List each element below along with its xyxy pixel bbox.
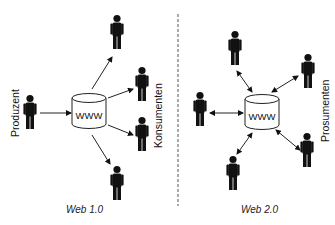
web-comparison-diagram: WWW WWW bbox=[0, 0, 335, 225]
web2-hub-label: WWW bbox=[249, 111, 276, 122]
prosumer-arrow-right-bottom bbox=[276, 130, 300, 150]
prosumer-arrow-top bbox=[237, 71, 252, 92]
consumer-person-icon bbox=[110, 15, 123, 49]
prosumer-person-icon bbox=[301, 54, 314, 88]
prosumer-arrow-right-top bbox=[272, 76, 298, 92]
consumer-label: Konsumenten bbox=[152, 83, 164, 148]
consumer-person-icon bbox=[135, 117, 148, 151]
prosumer-person-icon bbox=[300, 133, 313, 167]
prosumer-arrow-bottom bbox=[237, 133, 252, 154]
web2-section: WWW bbox=[193, 31, 314, 190]
web1-section: WWW bbox=[23, 15, 148, 200]
prosumer-person-icon bbox=[226, 156, 239, 190]
prosumer-person-icon bbox=[228, 31, 241, 65]
web2-caption: Web 2.0 bbox=[241, 204, 278, 215]
consumer-person-icon bbox=[135, 67, 148, 101]
producer-person-icon bbox=[23, 95, 36, 129]
consumer-arrow-bottom bbox=[92, 135, 110, 164]
consumer-arrow-top bbox=[92, 57, 112, 89]
consumer-arrow-right-1 bbox=[108, 89, 133, 98]
prosumer-label: Prosumenten bbox=[319, 80, 331, 142]
web1-hub-label: WWW bbox=[76, 110, 103, 121]
web1-caption: Web 1.0 bbox=[66, 204, 103, 215]
consumer-person-icon bbox=[110, 166, 123, 200]
producer-label: Produzent bbox=[9, 89, 21, 137]
consumer-arrow-right-2 bbox=[108, 125, 133, 135]
prosumer-person-icon bbox=[193, 92, 206, 126]
